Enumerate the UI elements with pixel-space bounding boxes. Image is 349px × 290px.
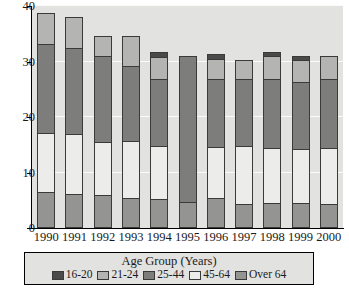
bar-segment[interactable] (207, 54, 225, 59)
bar-segment[interactable] (320, 56, 338, 80)
y-axis-tick-mark (27, 117, 31, 118)
bar-segment[interactable] (150, 57, 168, 80)
y-axis-tick-mark (27, 62, 31, 63)
x-axis-line (31, 228, 344, 229)
bar-segment[interactable] (65, 134, 83, 195)
bar-segment[interactable] (292, 56, 310, 61)
bar-column[interactable] (320, 6, 338, 228)
bar-segment[interactable] (65, 194, 83, 228)
bar-segment[interactable] (37, 13, 55, 45)
bar-segment[interactable] (320, 148, 338, 205)
bar-segment[interactable] (150, 52, 168, 57)
bar-segment[interactable] (235, 146, 253, 205)
legend: Age Group (Years) 16-2021-2425-4445-64Ov… (24, 252, 314, 285)
bar-column[interactable] (207, 6, 225, 228)
legend-label: 25-44 (157, 269, 184, 281)
bar-segment[interactable] (150, 199, 168, 228)
bar-segment[interactable] (122, 198, 140, 228)
bar-segment[interactable] (179, 56, 197, 204)
bar-segment[interactable] (235, 79, 253, 147)
bar-segment[interactable] (37, 44, 55, 134)
bar-segment[interactable] (207, 59, 225, 80)
bar-segment[interactable] (263, 203, 281, 228)
legend-item[interactable]: 16-20 (52, 269, 93, 281)
bar-segment[interactable] (94, 56, 112, 143)
legend-label: Over 64 (249, 269, 286, 281)
bar-segment[interactable] (320, 79, 338, 149)
bar-segment[interactable] (292, 203, 310, 228)
legend-item[interactable]: 21-24 (97, 269, 138, 281)
bar-segment[interactable] (320, 204, 338, 228)
bar-segment[interactable] (65, 48, 83, 134)
bar-segment[interactable] (179, 202, 197, 228)
bar-column[interactable] (150, 6, 168, 228)
bar-column[interactable] (94, 6, 112, 228)
bar-segment[interactable] (263, 56, 281, 80)
bar-segment[interactable] (292, 60, 310, 83)
bar-column[interactable] (122, 6, 140, 228)
legend-item[interactable]: 25-44 (143, 269, 184, 281)
bar-segment[interactable] (207, 79, 225, 148)
y-axis-tick-mark (27, 228, 31, 229)
legend-items: 16-2021-2425-4445-64Over 64 (25, 269, 313, 281)
legend-swatch (97, 271, 109, 280)
bar-column[interactable] (235, 6, 253, 228)
bar-segment[interactable] (122, 66, 140, 142)
bar-column[interactable] (65, 6, 83, 228)
bar-segment[interactable] (292, 82, 310, 150)
legend-swatch (143, 271, 155, 280)
bar-segment[interactable] (263, 79, 281, 148)
plot-wrapper (32, 6, 343, 228)
legend-item[interactable]: 45-64 (189, 269, 230, 281)
bar-segment[interactable] (207, 147, 225, 199)
bar-segment[interactable] (94, 142, 112, 196)
legend-label: 45-64 (203, 269, 230, 281)
legend-swatch (189, 271, 201, 280)
bar-segment[interactable] (207, 198, 225, 228)
bar-segment[interactable] (235, 204, 253, 228)
bar-column[interactable] (37, 6, 55, 228)
y-axis-tick-mark (27, 173, 31, 174)
legend-swatch (235, 271, 247, 280)
bar-segment[interactable] (37, 192, 55, 228)
bar-segment[interactable] (263, 52, 281, 57)
bar-segment[interactable] (94, 195, 112, 228)
legend-title: Age Group (Years) (25, 254, 313, 268)
legend-label: 21-24 (111, 269, 138, 281)
x-axis-tick-label: 2000 (309, 231, 349, 244)
legend-label: 16-20 (66, 269, 93, 281)
bar-column[interactable] (292, 6, 310, 228)
bar-segment[interactable] (65, 17, 83, 50)
bar-segment[interactable] (263, 148, 281, 205)
bar-segment[interactable] (94, 36, 112, 57)
bar-column[interactable] (263, 6, 281, 228)
bar-segment[interactable] (37, 133, 55, 193)
bar-segment[interactable] (150, 146, 168, 200)
bar-segment[interactable] (292, 149, 310, 204)
stacked-bar-chart: 010203040 199019911992199319941995199619… (0, 0, 349, 290)
bar-column[interactable] (179, 6, 197, 228)
y-axis-tick-mark (27, 6, 31, 7)
bar-segment[interactable] (122, 36, 140, 66)
bar-segment[interactable] (235, 60, 253, 80)
legend-item[interactable]: Over 64 (235, 269, 286, 281)
bar-segment[interactable] (150, 79, 168, 147)
bar-segment[interactable] (122, 141, 140, 199)
legend-swatch (52, 271, 64, 280)
